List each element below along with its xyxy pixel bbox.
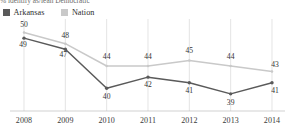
data-label-nation-2011: 44	[144, 52, 152, 61]
x-tick-2008: 2008	[16, 116, 32, 126]
data-label-arkansas-2010: 40	[103, 92, 111, 101]
data-label-arkansas-2013: 39	[227, 98, 235, 107]
data-point-arkansas-2014	[270, 81, 273, 84]
x-tick-2011: 2011	[140, 116, 156, 126]
chart-svg: 50484444454443 49474042413941	[0, 19, 291, 114]
series-labels-arkansas: 49474042413941	[19, 40, 279, 107]
data-label-nation-2013: 44	[227, 52, 235, 61]
data-label-arkansas-2014: 41	[271, 86, 279, 95]
data-point-nation-2008	[23, 31, 25, 33]
legend-item-nation: Nation	[61, 8, 94, 17]
legend-label-nation: Nation	[72, 8, 95, 17]
data-point-nation-2014	[271, 70, 273, 72]
data-label-nation-2012: 45	[186, 46, 194, 55]
chart-title-text: % identify as/lean Democratic	[0, 0, 291, 5]
legend-item-arkansas: Arkansas	[3, 8, 44, 17]
chart-plot-area: 50484444454443 49474042413941	[0, 19, 291, 114]
data-label-nation-2014: 43	[271, 60, 279, 69]
data-label-arkansas-2011: 42	[144, 80, 152, 89]
data-point-arkansas-2010	[105, 87, 108, 90]
x-tick-2014: 2014	[264, 116, 280, 126]
legend-label-arkansas: Arkansas	[14, 8, 45, 17]
x-tick-2009: 2009	[57, 116, 73, 126]
x-tick-2010: 2010	[98, 116, 114, 126]
data-point-arkansas-2013	[229, 92, 232, 95]
data-point-nation-2011	[147, 65, 149, 67]
x-tick-2013: 2013	[222, 116, 238, 126]
data-point-nation-2012	[188, 59, 190, 61]
data-label-nation-2009: 48	[62, 31, 70, 40]
x-axis-labels: 2008200920102011201220132014	[0, 116, 291, 130]
data-point-arkansas-2012	[188, 81, 191, 84]
data-label-nation-2010: 44	[103, 52, 111, 61]
legend-swatch-arkansas	[3, 9, 10, 16]
series-labels-nation: 50484444454443	[20, 20, 279, 69]
data-point-nation-2009	[64, 43, 66, 45]
data-point-arkansas-2011	[146, 75, 149, 78]
legend-swatch-nation	[61, 9, 68, 16]
data-label-arkansas-2012: 41	[186, 86, 194, 95]
chart-figure: % identify as/lean Democratic Arkansas N…	[0, 0, 291, 133]
data-label-arkansas-2009: 47	[60, 50, 68, 59]
chart-title-clipped: % identify as/lean Democratic	[0, 0, 291, 5]
x-tick-2012: 2012	[181, 116, 197, 126]
data-point-nation-2013	[229, 65, 231, 67]
chart-legend: Arkansas Nation	[3, 7, 94, 18]
data-point-nation-2010	[105, 65, 107, 67]
data-label-nation-2008: 50	[20, 20, 28, 29]
data-label-arkansas-2008: 49	[19, 40, 27, 49]
